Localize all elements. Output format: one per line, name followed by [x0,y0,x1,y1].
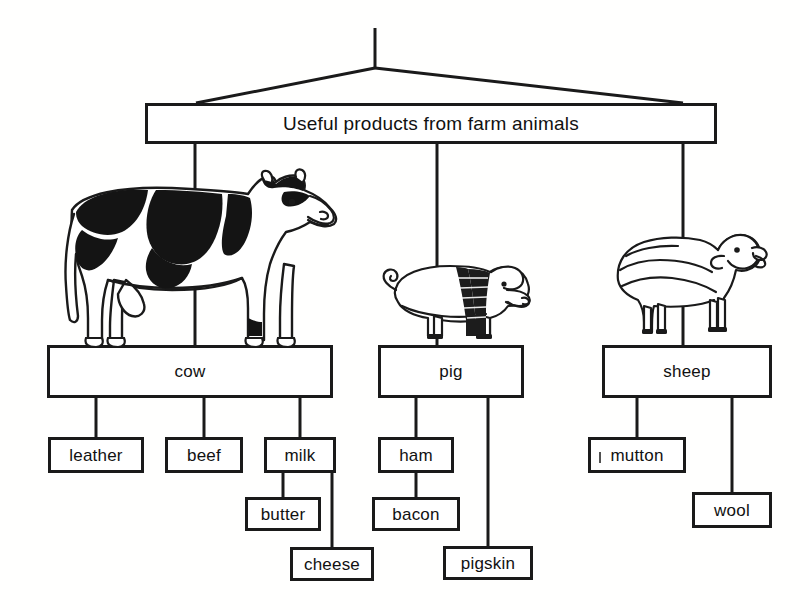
node-beef-label: beef [187,447,221,464]
node-bacon-label: bacon [392,506,439,523]
node-sheep-label: sheep [663,363,710,380]
node-root[interactable]: Useful products from farm animals [145,103,717,144]
node-sheep[interactable]: sheep [602,345,772,398]
node-ham-label: ham [399,447,433,464]
node-cow-label: cow [175,363,206,380]
node-butter-label: butter [261,506,306,523]
hanger-right-arm [375,68,683,103]
node-butter[interactable]: butter [245,497,321,531]
node-wool[interactable]: wool [692,492,772,528]
node-leather[interactable]: leather [48,437,144,473]
node-cheese-label: cheese [304,556,360,573]
hanger-left-arm [196,68,375,103]
node-cheese[interactable]: cheese [290,547,374,581]
node-pig[interactable]: pig [378,345,524,398]
node-mutton[interactable]: mutton [588,437,686,473]
node-ham[interactable]: ham [378,437,454,473]
node-beef[interactable]: beef [165,437,243,473]
node-pigskin[interactable]: pigskin [443,546,533,580]
node-pigskin-label: pigskin [461,555,515,572]
scan-artifact-mark [599,452,601,463]
node-leather-label: leather [69,447,122,464]
node-cow[interactable]: cow [47,345,333,398]
node-root-label: Useful products from farm animals [283,114,579,133]
node-pig-label: pig [439,363,462,380]
node-bacon[interactable]: bacon [372,497,460,531]
node-wool-label: wool [714,502,750,519]
node-mutton-label: mutton [610,447,663,464]
diagram-canvas: Useful products from farm animals [0,0,809,610]
node-milk[interactable]: milk [264,437,336,473]
node-milk-label: milk [284,447,315,464]
